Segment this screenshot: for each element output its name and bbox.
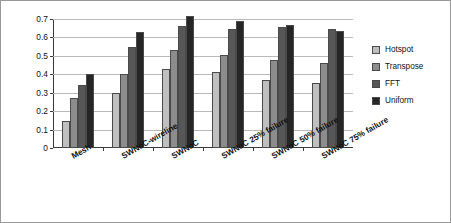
bar [70, 98, 78, 148]
legend-item: Hotspot [372, 41, 450, 58]
legend-label: Transpose [385, 62, 423, 71]
legend-label: Uniform [385, 96, 414, 105]
legend-item: FFT [372, 75, 450, 92]
y-tick-label: 0.2 [36, 106, 48, 116]
chart-figure: Throughput (flits/core per cycle) 00.10.… [0, 0, 451, 223]
legend-label: FFT [385, 79, 400, 88]
y-tick-mark [50, 148, 53, 149]
bar [86, 74, 94, 148]
x-tick-mark [153, 148, 154, 151]
legend-item: Uniform [372, 92, 450, 109]
bar [228, 29, 236, 148]
bar [112, 93, 120, 148]
plot-area: 00.10.20.30.40.50.60.7 [53, 19, 353, 148]
bar-group [103, 19, 153, 148]
x-tick-mark [253, 148, 254, 151]
bar [336, 31, 344, 148]
bar [212, 72, 220, 148]
bar [186, 16, 194, 148]
chart-legend: HotspotTransposeFFTUniform [372, 41, 450, 109]
bar [178, 26, 186, 148]
bar [62, 121, 70, 148]
bar [120, 74, 128, 148]
legend-swatch-icon [372, 80, 380, 88]
x-tick-mark [203, 148, 204, 151]
bar [136, 32, 144, 148]
x-tick-mark [103, 148, 104, 151]
y-tick-label: 0.3 [36, 88, 48, 98]
bar [220, 55, 228, 148]
bar [270, 60, 278, 148]
y-tick-label: 0.6 [36, 32, 48, 42]
legend-item: Transpose [372, 58, 450, 75]
y-tick-label: 0.1 [36, 125, 48, 135]
y-tick-label: 0 [43, 143, 48, 153]
legend-swatch-icon [372, 63, 380, 71]
x-tick-mark [303, 148, 304, 151]
y-tick-label: 0.7 [36, 14, 48, 24]
bar [328, 29, 336, 148]
bar [286, 25, 294, 148]
legend-swatch-icon [372, 46, 380, 54]
y-tick-label: 0.5 [36, 51, 48, 61]
bar [236, 21, 244, 148]
bar-group [203, 19, 253, 148]
bar [278, 27, 286, 148]
legend-label: Hotspot [385, 45, 413, 54]
bar-group [53, 19, 103, 148]
bar [128, 47, 136, 148]
bar [320, 63, 328, 148]
y-tick-label: 0.4 [36, 69, 48, 79]
legend-swatch-icon [372, 97, 380, 105]
bar [78, 85, 86, 148]
